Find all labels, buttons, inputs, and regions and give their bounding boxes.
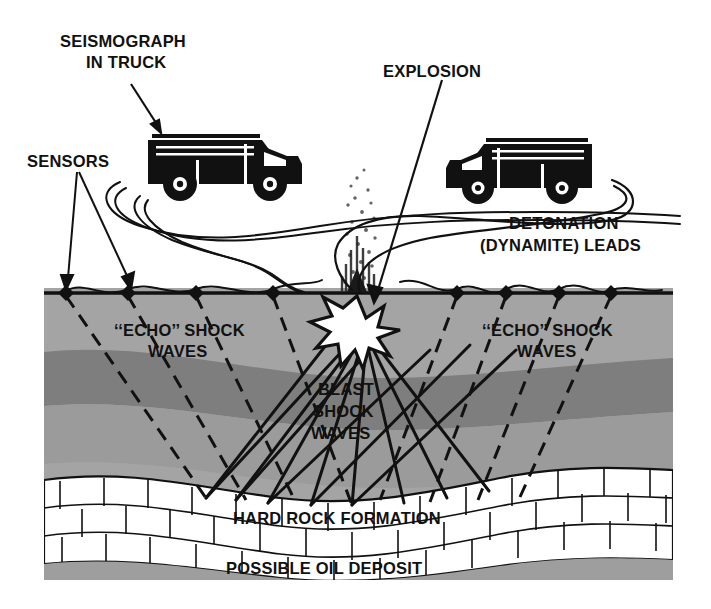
label-echo-left-line1: ‘‘ECHO’’ SHOCK — [114, 321, 245, 339]
label-sensors: SENSORS — [27, 152, 109, 170]
label-detonation-line1: DETONATION — [509, 214, 619, 232]
label-echo-right-line1: ‘‘ECHO’’ SHOCK — [482, 321, 613, 339]
label-seismograph-line2: IN TRUCK — [86, 53, 166, 71]
label-echo-left-line2: WAVES — [148, 342, 207, 360]
label-hard-rock-formation: HARD ROCK FORMATION — [233, 509, 441, 527]
seismic-survey-diagram: SEISMOGRAPH IN TRUCK SENSORS EXPLOSION D… — [0, 0, 711, 609]
label-possible-oil-deposit: POSSIBLE OIL DEPOSIT — [226, 559, 422, 577]
label-blast-line1: BLAST — [318, 380, 374, 398]
label-echo-right-line2: WAVES — [517, 342, 576, 360]
label-seismograph-line1: SEISMOGRAPH — [60, 32, 186, 50]
label-blast-line2: SHOCK — [313, 402, 374, 420]
label-explosion: EXPLOSION — [383, 62, 481, 80]
label-detonation-line2: (DYNAMITE) LEADS — [480, 236, 641, 254]
label-blast-line3: WAVES — [311, 424, 370, 442]
